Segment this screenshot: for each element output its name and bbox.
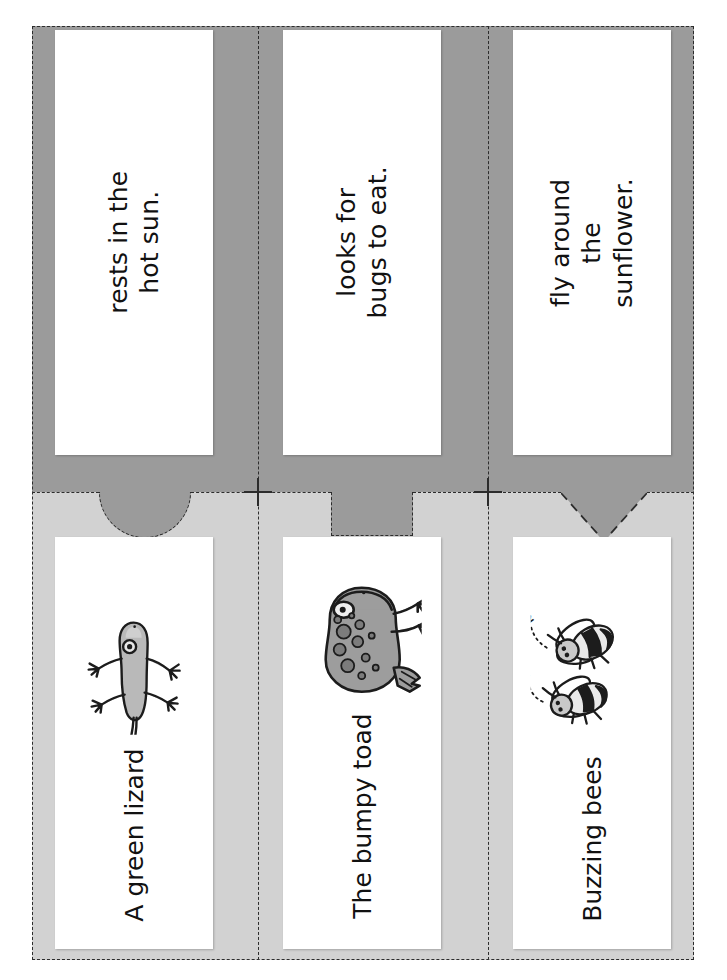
subject-card-bottom-2[interactable]: The bumpy toad xyxy=(283,537,441,949)
sentence-text: looks for bugs to eat. xyxy=(331,164,394,322)
puzzle-tab-rectangle xyxy=(331,492,413,536)
subject-label: A green lizard xyxy=(120,748,149,921)
cut-line-seam-a xyxy=(32,492,99,493)
bees-illustration: z z z xyxy=(531,564,653,742)
subject-label: Buzzing bees xyxy=(578,756,607,922)
subject-card-bottom-3[interactable]: Buzzing bees xyxy=(513,537,671,949)
registration-crosshair-icon xyxy=(244,478,272,506)
cut-line-seam-d xyxy=(647,492,694,493)
svg-text:z: z xyxy=(531,667,532,682)
lizard-illustration xyxy=(75,564,193,734)
sentence-card-top-3[interactable]: fly around the sunflower. xyxy=(513,30,671,455)
registration-crosshair-icon xyxy=(474,478,502,506)
subject-label: The bumpy toad xyxy=(348,713,377,918)
toad-illustration xyxy=(302,567,422,699)
puzzle-tab-triangle xyxy=(561,492,647,542)
worksheet-sheet: rests in the hot sun. looks for bugs to … xyxy=(0,0,727,980)
sentence-card-top-1[interactable]: rests in the hot sun. xyxy=(55,30,213,455)
subject-card-bottom-1[interactable]: A green lizard xyxy=(55,537,213,949)
svg-text:z: z xyxy=(531,611,536,626)
sentence-card-top-2[interactable]: looks for bugs to eat. xyxy=(283,30,441,455)
sentence-text: fly around the sunflower. xyxy=(545,164,639,322)
sentence-text: rests in the hot sun. xyxy=(103,164,166,322)
